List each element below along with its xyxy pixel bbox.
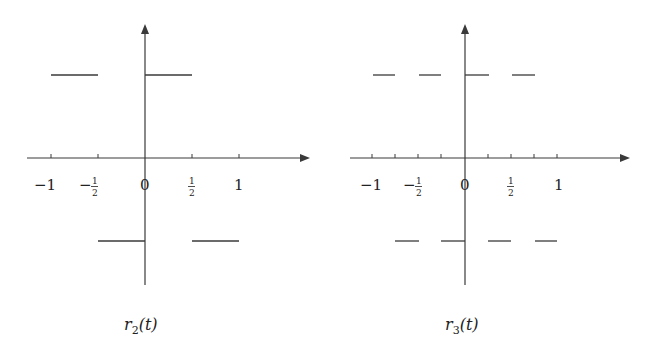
caption-r2: r2(t) [124,315,158,337]
tick-label-half: 1 2 [507,176,514,198]
tick-label-one: 1 [234,176,244,194]
y-axis-arrow-icon [461,24,469,34]
svg-text:1: 1 [508,176,514,186]
svg-text:−: − [403,176,416,194]
tick-label-zero: 0 [140,176,150,194]
svg-text:1: 1 [416,176,422,186]
tick-label-neg-one: −1 [34,176,56,194]
tick-label-neg-one: −1 [360,176,382,194]
x-axis-arrow-icon [300,154,310,162]
svg-text:2: 2 [508,188,514,198]
svg-text:1: 1 [189,176,195,186]
plot-r2: −1 − 1 2 0 1 2 1 r2(t) [27,24,310,337]
tick-label-half: 1 2 [188,176,195,198]
tick-label-neg-half: − 1 2 [79,176,98,198]
tick-label-neg-half: − 1 2 [403,176,422,198]
svg-text:1: 1 [92,176,98,186]
caption-r3: r3(t) [445,315,479,337]
x-axis-arrow-icon [620,154,630,162]
rademacher-diagram: −1 − 1 2 0 1 2 1 r2(t) [0,0,652,356]
y-axis-arrow-icon [141,24,149,34]
svg-text:−: − [79,176,92,194]
tick-label-zero: 0 [460,176,470,194]
tick-label-one: 1 [554,176,564,194]
svg-text:2: 2 [92,188,98,198]
svg-text:2: 2 [189,188,195,198]
svg-text:2: 2 [416,188,422,198]
plot-r3: −1 − 1 2 0 1 2 1 r3(t) [350,24,630,337]
